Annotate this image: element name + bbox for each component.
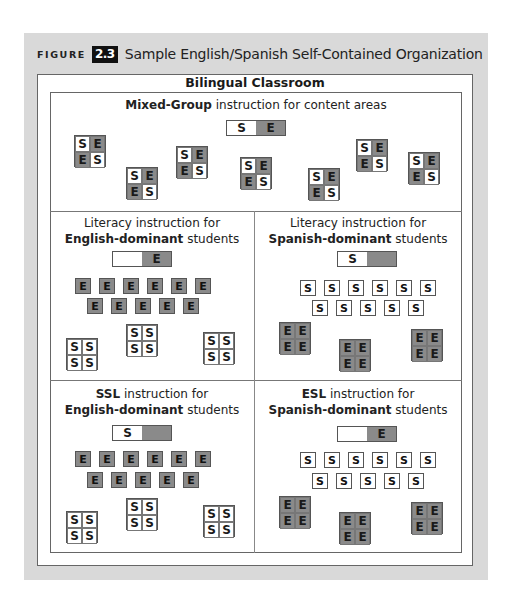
english-student: E [280, 497, 295, 513]
esl-spanish-s-tile: S [384, 473, 400, 489]
ssl-english-e-tile: E [99, 451, 115, 467]
literacy-english-e-tile: E [111, 298, 127, 314]
spanish-student: S [204, 506, 219, 522]
english-student: E [412, 346, 427, 362]
spanish-student: S [142, 499, 157, 515]
english-student: E [142, 168, 157, 184]
spanish-student: S [127, 515, 142, 531]
literacy-spanish-s-tile: S [408, 300, 424, 316]
english-student: E [295, 497, 310, 513]
spanish-student: S [372, 156, 387, 172]
literacy-spanish-e-quad: EEEE [339, 339, 371, 371]
spanish-student: S [219, 522, 234, 538]
mixed-group-quad: SEES [408, 152, 440, 184]
figure-header: FIGURE 2.3 Sample English/Spanish Self-C… [37, 44, 483, 64]
spanish-student: S [142, 184, 157, 200]
literacy-english-s-quad: SSSS [126, 324, 158, 356]
esl-spanish-s-tile: S [312, 473, 328, 489]
spanish-student: S [127, 499, 142, 515]
literacy-spanish-e-quad: EEEE [279, 322, 311, 354]
mixed-group-quad: SEES [176, 146, 208, 178]
english-student: E [280, 513, 295, 529]
mixed-group-quad: SEES [240, 157, 272, 189]
spanish-student: S [142, 325, 157, 341]
spanish-student: S [309, 169, 324, 185]
english-student: E [256, 158, 271, 174]
spanish-student: S [424, 169, 439, 185]
spanish-student: S [67, 528, 82, 544]
spanish-student: S [127, 168, 142, 184]
literacy-english-e-tile: E [147, 278, 163, 294]
literacy-spanish-s-tile: S [360, 300, 376, 316]
english-student: E [355, 529, 370, 545]
divider-mixed [50, 211, 462, 212]
literacy-spanish-s-tile: S [300, 280, 316, 296]
english-student: E [424, 153, 439, 169]
spanish-student: S [82, 512, 97, 528]
divider-middle [50, 380, 462, 381]
english-student: E [340, 513, 355, 529]
spanish-student: S [219, 333, 234, 349]
literacy-english-e-tile: E [183, 298, 199, 314]
spanish-student: S [204, 349, 219, 365]
mixed-language-bar: S E [226, 120, 286, 136]
literacy-english-e-tile: E [87, 298, 103, 314]
ssl-english-e-tile: E [75, 451, 91, 467]
spanish-student: S [409, 153, 424, 169]
english-student: E [75, 152, 90, 168]
spanish-student: S [127, 341, 142, 357]
figure-title: Sample English/Spanish Self-Contained Or… [125, 46, 483, 62]
english-student: E [427, 346, 442, 362]
esl-spanish-e-quad: EEEE [279, 496, 311, 528]
spanish-student: S [142, 515, 157, 531]
english-student: E [295, 339, 310, 355]
ssl-english-e-tile: E [195, 451, 211, 467]
english-student: E [412, 503, 427, 519]
literacy-spanish-s-tile: S [384, 300, 400, 316]
literacy-english-e-tile: E [135, 298, 151, 314]
mixed-group-quad: SEES [308, 168, 340, 200]
english-student: E [177, 163, 192, 179]
ssl-english-s-quad: SSSS [203, 505, 235, 537]
esl-spanish-title: ESL instruction for Spanish-dominant stu… [254, 386, 462, 418]
literacy-english-s-quad: SSSS [203, 332, 235, 364]
spanish-student: S [67, 512, 82, 528]
literacy-spanish-s-tile: S [372, 280, 388, 296]
spanish-student: S [357, 140, 372, 156]
english-student: E [427, 519, 442, 535]
literacy-spanish-s-tile: S [348, 280, 364, 296]
english-student: E [372, 140, 387, 156]
english-student: E [427, 330, 442, 346]
english-student: E [127, 184, 142, 200]
esl-spanish-s-tile: S [408, 473, 424, 489]
spanish-student: S [177, 147, 192, 163]
mixed-group-quad: SEES [126, 167, 158, 199]
ssl-english-e-tile: E [171, 451, 187, 467]
literacy-english-bar: E [112, 251, 172, 267]
english-student: E [409, 169, 424, 185]
spanish-student: S [82, 339, 97, 355]
english-student: E [357, 156, 372, 172]
english-student: E [355, 513, 370, 529]
english-student: E [309, 185, 324, 201]
figure-number: 2.3 [92, 46, 118, 63]
literacy-english-s-quad: SSSS [66, 338, 98, 370]
literacy-spanish-s-tile: S [336, 300, 352, 316]
english-student: E [192, 147, 207, 163]
literacy-spanish-e-quad: EEEE [411, 329, 443, 361]
literacy-english-e-tile: E [99, 278, 115, 294]
esl-spanish-s-tile: S [348, 452, 364, 468]
ssl-english-s-quad: SSSS [66, 511, 98, 543]
literacy-spanish-title: Literacy instruction for Spanish-dominan… [254, 215, 462, 247]
mixed-group-quad: SEES [74, 135, 106, 167]
spanish-student: S [142, 341, 157, 357]
literacy-spanish-s-tile: S [396, 280, 412, 296]
literacy-english-e-tile: E [159, 298, 175, 314]
spanish-student: S [127, 325, 142, 341]
figure-label: FIGURE [37, 49, 86, 60]
esl-spanish-e-quad: EEEE [411, 502, 443, 534]
english-student: E [90, 136, 105, 152]
spanish-student: S [256, 174, 271, 190]
mixed-group-quad: SEES [356, 139, 388, 171]
literacy-english-title: Literacy instruction for English-dominan… [50, 215, 254, 247]
